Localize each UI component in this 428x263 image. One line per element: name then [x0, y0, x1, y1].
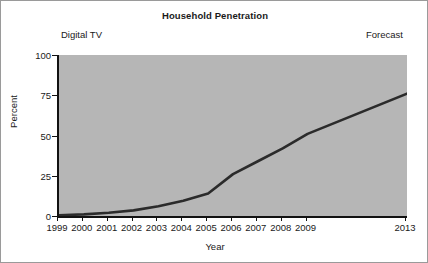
- x-tick-label: 2013: [394, 222, 415, 233]
- x-axis-tick-labels: 1999200020012002200320042005200620072008…: [57, 222, 405, 236]
- x-tick-mark: [405, 216, 406, 221]
- x-tick-mark: [306, 216, 307, 221]
- annotation-forecast: Forecast: [366, 29, 403, 40]
- x-tick-label: 2000: [71, 222, 92, 233]
- line-series-svg: [59, 55, 407, 216]
- x-tick-mark: [281, 216, 282, 221]
- x-tick-mark: [156, 216, 157, 221]
- x-tick-mark: [256, 216, 257, 221]
- x-tick-label: 2008: [270, 222, 291, 233]
- x-tick-mark: [82, 216, 83, 221]
- x-tick-label: 2005: [196, 222, 217, 233]
- y-tick-label: 75: [21, 90, 51, 101]
- plot-area: [57, 55, 407, 218]
- series-line-digital-tv: [59, 94, 407, 216]
- annotation-digital-tv: Digital TV: [61, 29, 102, 40]
- x-tick-mark: [206, 216, 207, 221]
- x-tick-mark: [107, 216, 108, 221]
- x-tick-label: 2007: [245, 222, 266, 233]
- x-tick-mark: [231, 216, 232, 221]
- x-tick-label: 2002: [121, 222, 142, 233]
- x-tick-mark: [132, 216, 133, 221]
- y-tick-label: 50: [21, 130, 51, 141]
- x-tick-label: 2004: [171, 222, 192, 233]
- x-tick-label: 2006: [220, 222, 241, 233]
- x-tick-label: 2001: [96, 222, 117, 233]
- y-tick-label: 100: [21, 50, 51, 61]
- y-tick-label: 25: [21, 170, 51, 181]
- y-axis-tick-labels: 0255075100: [17, 55, 51, 216]
- x-tick-label: 1999: [46, 222, 67, 233]
- x-tick-mark: [181, 216, 182, 221]
- x-tick-label: 2003: [146, 222, 167, 233]
- x-tick-mark: [57, 216, 58, 221]
- x-tick-label: 2009: [295, 222, 316, 233]
- chart-figure: Household Penetration Digital TV Forecas…: [0, 0, 428, 263]
- chart-title: Household Penetration: [1, 10, 428, 21]
- x-axis-title: Year: [1, 241, 428, 252]
- y-tick-label: 0: [21, 211, 51, 222]
